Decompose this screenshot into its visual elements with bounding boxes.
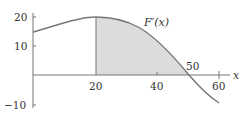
root-label-50: 50 [186,60,199,72]
chart: 20 10 −10 20 40 60 50 x F′(x) [0,0,245,117]
y-tick-label-10: 10 [14,40,27,52]
x-tick-label-20: 20 [89,80,102,92]
x-tick-label-40: 40 [150,80,163,92]
function-label: F′(x) [143,16,169,29]
y-tick-label-neg10: −10 [4,99,26,111]
x-tick-label-60: 60 [212,80,225,92]
x-axis-label: x [233,69,240,82]
shaded-area [96,17,189,75]
y-tick-label-20: 20 [14,11,27,23]
